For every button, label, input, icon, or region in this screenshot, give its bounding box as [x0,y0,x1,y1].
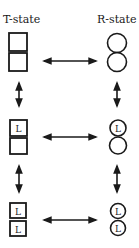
ligand-label: L [115,224,121,234]
r-state-one-ligand: L [110,120,127,154]
ligand-label: L [115,124,121,134]
r-subunit-circle [108,53,127,72]
r-subunit-circle [108,34,127,53]
t-state-one-ligand: L [10,120,27,154]
r-subunit-circle [110,137,127,154]
ligand-label: L [15,207,21,217]
t-subunit-square [9,53,27,71]
t-subunit-square [9,33,27,51]
allosteric-diagram: L L L L L L [0,0,139,248]
t-state-unliganded [9,33,27,71]
ligand-label: L [16,124,22,134]
ligand-label: L [15,225,21,235]
t-subunit-square [10,138,27,154]
ligand-label: L [115,207,121,217]
r-state-two-ligands: L L [111,204,126,236]
r-state-unliganded [108,34,127,72]
t-state-two-ligands: L L [10,203,26,236]
